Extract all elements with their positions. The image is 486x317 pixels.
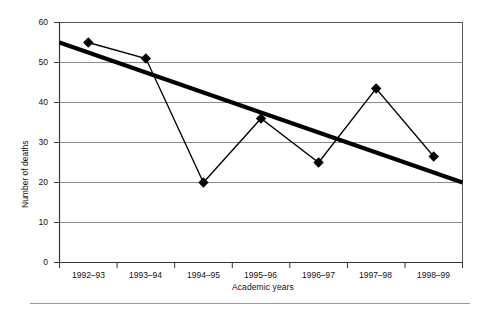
- x-tick-label-1994-95: 1994–95: [176, 270, 231, 280]
- y-axis-title-wrap: Number of deaths: [8, 96, 22, 216]
- y-axis-title: Number of deaths: [20, 140, 30, 208]
- y-tick-label: 50: [26, 57, 48, 67]
- x-tick-label-1993-94: 1993–94: [118, 270, 173, 280]
- x-tick-label-1997-98: 1997–98: [348, 270, 403, 280]
- x-tick-label-1995-96: 1995–96: [233, 270, 288, 280]
- y-tick-label: 10: [26, 217, 48, 227]
- x-axis-title: Academic years: [232, 282, 294, 292]
- x-tick-label-1992-93: 1992–93: [61, 270, 116, 280]
- chart-figure: 60 50 40 30 20 10 0 1992–93 1993–94 1994…: [0, 0, 486, 317]
- y-axis-ticks: [54, 23, 60, 263]
- x-tick-label-1996-97: 1996–97: [291, 270, 346, 280]
- y-tick-label: 60: [26, 17, 48, 27]
- x-axis-ticks: [60, 263, 463, 269]
- y-tick-label: 0: [26, 257, 48, 267]
- y-tick-label: 40: [26, 97, 48, 107]
- bottom-divider: [30, 303, 470, 304]
- x-tick-label-1998-99: 1998–99: [406, 270, 461, 280]
